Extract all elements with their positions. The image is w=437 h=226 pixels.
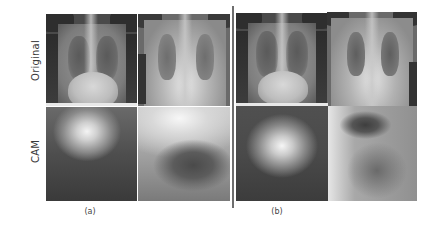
image-a-cam-2 bbox=[138, 107, 230, 201]
row-label-cam: CAM bbox=[30, 112, 41, 192]
figure: Original CAM (a) bbox=[0, 0, 437, 226]
caption-a: (a) bbox=[75, 207, 105, 216]
image-b-original-1 bbox=[236, 13, 328, 103]
image-b-cam-2 bbox=[328, 106, 417, 201]
caption-b: (b) bbox=[262, 207, 292, 216]
image-a-original-2 bbox=[138, 14, 230, 106]
row-separator-a bbox=[46, 103, 137, 106]
image-b-original-2 bbox=[327, 12, 417, 106]
row-label-original: Original bbox=[30, 21, 41, 101]
image-a-original-1 bbox=[46, 14, 137, 103]
group-divider bbox=[232, 6, 234, 208]
image-a-cam-1 bbox=[46, 107, 137, 201]
image-b-cam-1 bbox=[236, 106, 328, 201]
